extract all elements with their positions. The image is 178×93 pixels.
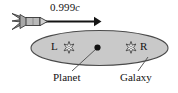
galaxy-label: Galaxy xyxy=(120,72,152,83)
planet-dot xyxy=(94,44,100,50)
rocket-icon xyxy=(12,14,48,30)
speed-unit: c xyxy=(75,2,80,13)
velocity-arrow xyxy=(42,17,102,26)
speed-label: 0.999c xyxy=(50,2,80,13)
physics-figure: 0.999c L R Planet Galaxy xyxy=(0,0,178,93)
planet-label: Planet xyxy=(53,72,81,83)
star-right-label: R xyxy=(140,41,147,52)
speed-value: 0.999 xyxy=(50,1,75,13)
star-left-label: L xyxy=(51,41,58,52)
